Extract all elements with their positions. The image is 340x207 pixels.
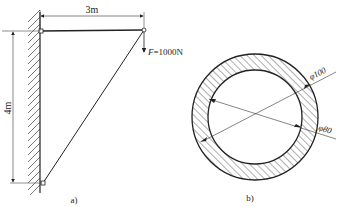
wall-hatching — [28, 10, 40, 195]
dimension-3m: 3m — [40, 4, 144, 31]
horizontal-bar — [40, 30, 144, 31]
dimension-3m-label: 3m — [86, 4, 99, 15]
inner-circle — [208, 70, 302, 164]
force-label: F=1000N — [147, 47, 184, 57]
phi100-label: φ100 — [307, 65, 328, 82]
ring-hatching — [190, 52, 320, 182]
load-joint — [142, 28, 146, 32]
truss-figure-a: 3m 4m F=1000N a) — [2, 4, 184, 205]
tube-cross-section-figure-b: φ100 φ80 b) — [190, 52, 336, 203]
outer-circle — [192, 54, 318, 180]
force-arrow: F=1000N — [144, 32, 184, 57]
dimension-4m-label: 4m — [2, 101, 13, 114]
caption-a: a) — [71, 195, 78, 205]
caption-b: b) — [246, 193, 254, 203]
inclined-bar — [43, 30, 144, 183]
force-value: =1000N — [154, 47, 184, 57]
diagram-canvas: 3m 4m F=1000N a) φ100 — [0, 0, 340, 207]
dimension-4m: 4m — [2, 31, 42, 183]
